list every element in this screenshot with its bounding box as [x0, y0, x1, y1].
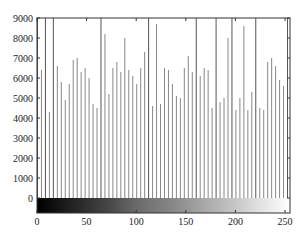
- y-tick-label: 8000: [13, 33, 33, 44]
- grayscale-colorbar: [37, 198, 292, 213]
- y-tick-label: 4000: [13, 113, 33, 124]
- y-tick-label: 0: [28, 193, 33, 204]
- x-tick-label: 0: [35, 216, 40, 227]
- x-tick-label: 250: [278, 216, 293, 227]
- histogram-bars: [38, 18, 288, 198]
- y-tick-label: 2000: [13, 153, 33, 164]
- x-tick-label: 100: [129, 216, 144, 227]
- x-tick-label: 50: [82, 216, 92, 227]
- histogram-chart: 0100020003000400050006000700080009000 05…: [0, 0, 307, 240]
- y-tick-label: 9000: [13, 13, 33, 24]
- y-tick-label: 6000: [13, 73, 33, 84]
- y-tick-label: 5000: [13, 93, 33, 104]
- x-tick-label: 150: [178, 216, 193, 227]
- y-tick-label: 3000: [13, 133, 33, 144]
- y-tick-label: 1000: [13, 173, 33, 184]
- x-tick-label: 200: [228, 216, 243, 227]
- y-tick-label: 7000: [13, 53, 33, 64]
- y-axis-ticks: 0100020003000400050006000700080009000: [13, 13, 290, 204]
